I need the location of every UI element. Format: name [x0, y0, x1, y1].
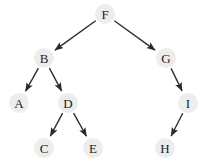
- edges-layer: [26, 21, 183, 136]
- edge-f-to-b: [55, 21, 96, 50]
- tree-diagram-svg: FBGADICEH: [0, 0, 204, 164]
- node-label-a: A: [14, 96, 24, 111]
- node-a[interactable]: A: [9, 93, 29, 113]
- node-label-h: H: [160, 141, 169, 156]
- edge-d-to-c: [50, 113, 62, 136]
- edge-g-to-i: [171, 68, 182, 91]
- node-i[interactable]: I: [178, 93, 198, 113]
- tree-diagram: FBGADICEH: [0, 0, 204, 164]
- edge-b-to-a: [26, 68, 39, 91]
- node-label-f: F: [101, 7, 108, 22]
- node-label-i: I: [186, 96, 190, 111]
- node-label-g: G: [161, 51, 170, 66]
- node-label-d: D: [63, 96, 72, 111]
- edge-i-to-h: [171, 113, 183, 136]
- edge-d-to-e: [74, 113, 87, 136]
- node-b[interactable]: B: [34, 48, 54, 68]
- node-g[interactable]: G: [156, 48, 176, 68]
- node-e[interactable]: E: [83, 138, 103, 158]
- edge-b-to-d: [49, 68, 61, 91]
- node-c[interactable]: C: [34, 138, 54, 158]
- edge-f-to-g: [114, 21, 155, 50]
- node-label-b: B: [40, 51, 49, 66]
- node-label-e: E: [89, 141, 97, 156]
- node-f[interactable]: F: [95, 4, 115, 24]
- node-h[interactable]: H: [155, 138, 175, 158]
- node-label-c: C: [40, 141, 49, 156]
- nodes-layer: FBGADICEH: [9, 4, 198, 158]
- node-d[interactable]: D: [58, 93, 78, 113]
